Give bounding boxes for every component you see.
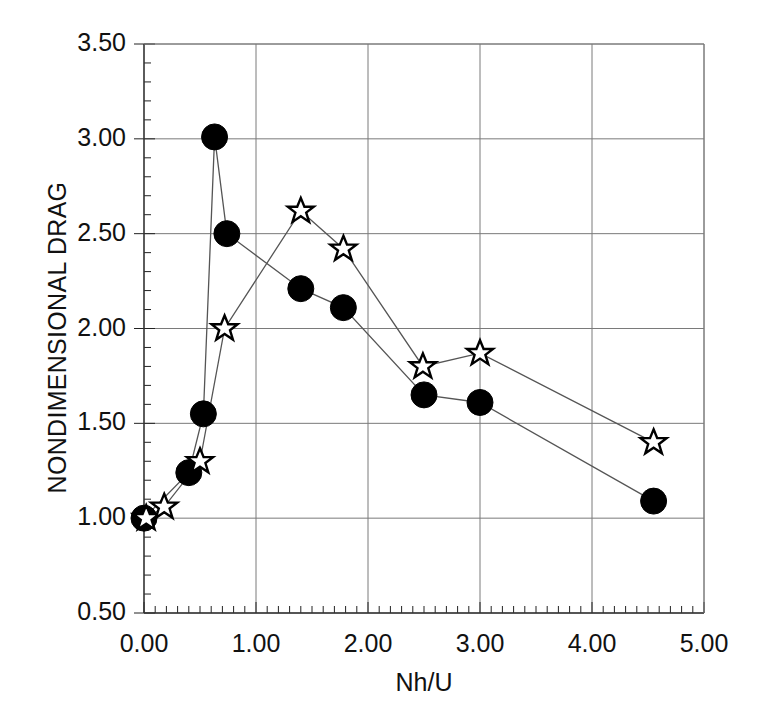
x-tick-label: 3.00 [425,629,535,658]
y-tick-label: 0.50 [36,597,126,626]
x-tick-label: 4.00 [537,629,647,658]
figure-container: 0.501.001.502.002.503.003.50 0.001.002.0… [0,0,759,719]
x-axis-label: Nh/U [284,668,564,697]
series-markers [131,124,667,531]
y-tick-label: 3.50 [36,28,126,57]
x-tick-label: 2.00 [313,629,423,658]
x-tick-label: 5.00 [649,629,759,658]
y-axis-label: NONDIMENSIONAL DRAG [43,128,72,548]
x-tick-label: 1.00 [201,629,311,658]
x-tick-label: 0.00 [89,629,199,658]
